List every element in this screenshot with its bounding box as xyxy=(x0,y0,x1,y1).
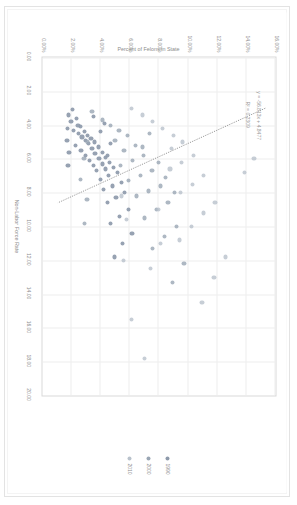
legend-marker-icon xyxy=(166,456,170,460)
chart-legend: 199020002010 xyxy=(127,456,171,474)
x-axis-tick-label: 8.00 xyxy=(25,187,31,197)
gridline-vertical xyxy=(42,396,275,397)
y-axis-tick-label: 8.00% xyxy=(157,19,163,53)
x-axis-title: Non-Labor Force Rate xyxy=(13,57,19,397)
x-axis-tick-label: 16.00 xyxy=(25,321,31,334)
legend-item-2000[interactable]: 2000 xyxy=(146,456,152,474)
y-axis-tick-label: 12.00% xyxy=(215,19,221,53)
x-axis-tick-label: 6.00 xyxy=(25,153,31,163)
x-axis-tick-label: 12.00 xyxy=(25,253,31,266)
x-axis-tick-label: 10.00 xyxy=(25,219,31,232)
y-axis-tick-label: 2.00% xyxy=(69,19,75,53)
x-axis-tick-label: 20.00 xyxy=(25,388,31,401)
legend-label: 1990 xyxy=(165,463,171,474)
legend-label: 2010 xyxy=(127,463,133,474)
trendline-equation: y = -56.813x + 4.8477 xyxy=(255,91,261,140)
trendline xyxy=(42,58,275,396)
trendline-r-squared: R² = 0.2309 xyxy=(244,101,250,127)
y-axis-tick-label: 4.00% xyxy=(98,19,104,53)
x-axis-tick-label: 2.00 xyxy=(25,85,31,95)
y-axis-tick-label: 16.00% xyxy=(273,19,279,53)
y-axis-tick-label: 6.00% xyxy=(127,19,133,53)
x-axis-tick-label: 4.00 xyxy=(25,119,31,129)
x-axis-tick-label: 18.00 xyxy=(25,354,31,367)
plot-area: y = -56.813x + 4.8477R² = 0.2309 xyxy=(41,57,276,397)
y-axis-tick-label: 0.00% xyxy=(40,19,46,53)
y-axis-tick-label: 10.00% xyxy=(186,19,192,53)
legend-item-2010[interactable]: 2010 xyxy=(127,456,133,474)
rotated-chart-wrapper: y = -56.813x + 4.8477R² = 0.2309 Non-Lab… xyxy=(11,13,286,493)
legend-label: 2000 xyxy=(146,463,152,474)
y-axis-tick-label: 14.00% xyxy=(244,19,250,53)
legend-marker-icon xyxy=(128,456,132,460)
x-axis-tick-label: 14.00 xyxy=(25,287,31,300)
x-axis-tick-label: 0.00 xyxy=(25,52,31,62)
scatter-chart: y = -56.813x + 4.8477R² = 0.2309 Non-Lab… xyxy=(11,13,286,493)
legend-item-1990[interactable]: 1990 xyxy=(165,456,171,474)
legend-marker-icon xyxy=(147,456,151,460)
y-axis-title: Percent of Felons in State xyxy=(69,46,229,52)
